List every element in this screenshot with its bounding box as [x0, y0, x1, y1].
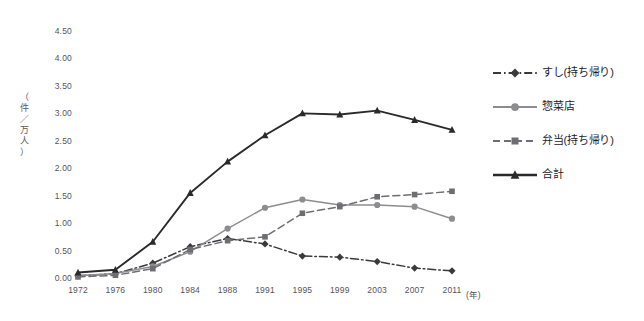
data-point — [299, 252, 306, 259]
legend-label: 合計 — [542, 165, 564, 181]
legend-item-2[interactable]: 弁当(持ち帰り) — [492, 130, 640, 164]
data-point — [449, 188, 455, 194]
data-point — [412, 204, 418, 210]
data-point — [225, 238, 231, 244]
data-point — [262, 234, 268, 240]
data-point — [448, 267, 455, 274]
legend-swatch — [492, 66, 538, 80]
data-point — [411, 265, 418, 272]
data-point — [113, 272, 119, 278]
data-point — [299, 196, 305, 202]
data-point — [262, 205, 268, 211]
data-point — [225, 226, 231, 232]
legend-item-0[interactable]: すし(持ち帰り) — [492, 62, 640, 96]
data-point — [150, 266, 156, 272]
data-point — [336, 254, 343, 261]
legend-swatch — [492, 168, 538, 182]
data-point — [374, 202, 380, 208]
data-point — [261, 240, 268, 247]
chart-legend: すし(持ち帰り)惣菜店弁当(持ち帰り)合計 — [492, 62, 640, 198]
legend-item-1[interactable]: 惣菜店 — [492, 96, 640, 130]
data-point — [449, 216, 455, 222]
legend-label: 弁当(持ち帰り) — [542, 131, 614, 147]
series-3 — [75, 107, 456, 276]
data-point — [374, 194, 380, 200]
data-point — [374, 258, 381, 265]
legend-label: 惣菜店 — [542, 97, 574, 113]
data-point — [337, 204, 343, 210]
series-2 — [75, 188, 455, 279]
legend-swatch — [492, 100, 538, 114]
data-point — [412, 192, 418, 198]
data-point — [300, 210, 306, 216]
legend-swatch — [492, 134, 538, 148]
legend-item-3[interactable]: 合計 — [492, 164, 640, 198]
legend-label: すし(持ち帰り) — [542, 63, 614, 79]
line-chart: （ 件 ／ 万 人 ） 0.000.501.001.502.002.503.00… — [0, 0, 644, 321]
data-point — [187, 247, 193, 253]
